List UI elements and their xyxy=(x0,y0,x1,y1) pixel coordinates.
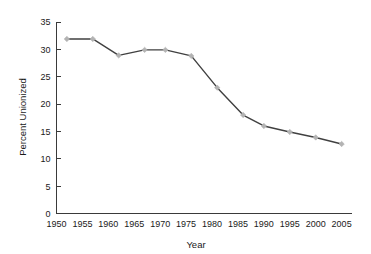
x-tick-label: 1985 xyxy=(228,219,248,229)
series-line-percent-unionized xyxy=(67,39,342,144)
x-tick-label: 2000 xyxy=(306,219,326,229)
y-tick-label: 0 xyxy=(45,209,50,219)
data-point-marker xyxy=(163,47,168,52)
data-point-marker xyxy=(339,141,344,146)
x-tick-label: 1955 xyxy=(72,219,92,229)
data-point-marker xyxy=(261,123,266,128)
y-tick-label: 25 xyxy=(40,72,50,82)
x-tick-label: 1960 xyxy=(98,219,118,229)
data-point-marker xyxy=(313,135,318,140)
x-tick-label: 1950 xyxy=(46,219,66,229)
y-tick-label: 10 xyxy=(40,154,50,164)
y-tick-label: 35 xyxy=(40,17,50,27)
y-axis-tick-labels: 05101520253035 xyxy=(40,17,50,219)
x-axis-tick-labels: 1950195519601965197019751980198519901995… xyxy=(46,219,351,229)
y-tick-label: 15 xyxy=(40,127,50,137)
data-point-marker xyxy=(64,36,69,41)
y-tick-label: 5 xyxy=(45,182,50,192)
y-axis-tick-marks xyxy=(57,22,61,214)
x-axis-title: Year xyxy=(186,239,205,250)
y-tick-label: 30 xyxy=(40,45,50,55)
chart-container: 05101520253035 1950195519601965197019751… xyxy=(0,0,371,254)
x-tick-label: 1975 xyxy=(176,219,196,229)
data-point-marker xyxy=(142,47,147,52)
x-tick-label: 1970 xyxy=(150,219,170,229)
x-tick-label: 1980 xyxy=(202,219,222,229)
data-point-marker xyxy=(287,129,292,134)
x-tick-label: 1995 xyxy=(280,219,300,229)
line-chart: 05101520253035 1950195519601965197019751… xyxy=(0,0,371,254)
x-tick-label: 1965 xyxy=(124,219,144,229)
series-markers xyxy=(64,36,344,146)
x-tick-label: 2005 xyxy=(332,219,352,229)
y-axis-title: Percent Unionized xyxy=(17,78,28,156)
x-tick-label: 1990 xyxy=(254,219,274,229)
y-tick-label: 20 xyxy=(40,99,50,109)
